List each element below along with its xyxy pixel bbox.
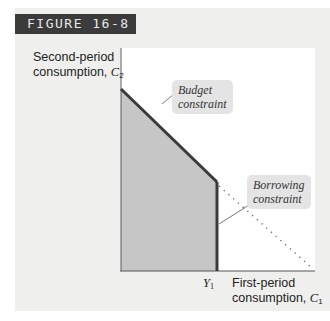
borrowing-constraint-note: Borrowing constraint <box>247 175 311 209</box>
borrow-leader-line <box>219 205 249 224</box>
x-axis-label: First-period consumption, C1 <box>232 276 323 309</box>
x-tick-y1: Y1 <box>203 276 214 291</box>
attainable-region <box>121 89 217 271</box>
chart-graphics <box>0 0 330 321</box>
y-axis-label: Second-period consumption, C2 <box>33 50 124 83</box>
budget-constraint-note: Budget constraint <box>172 80 233 114</box>
